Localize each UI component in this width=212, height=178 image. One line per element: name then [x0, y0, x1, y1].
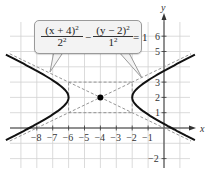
- x-tick-label: −2: [126, 132, 137, 143]
- callout-pointers: [50, 51, 142, 78]
- x-tick-label: −8: [31, 132, 42, 143]
- x-tick-label: −7: [47, 132, 58, 143]
- center-point: [97, 94, 103, 100]
- x-axis-label: x: [199, 123, 205, 134]
- equation-callout: (x + 4)2 22 − (y − 2)2 12 = 1: [34, 20, 142, 54]
- y-tick-label: 3: [155, 77, 160, 88]
- equals-one: = 1: [133, 31, 147, 43]
- y-axis-label: y: [160, 2, 166, 13]
- y-term-numerator: (y − 2): [96, 24, 126, 36]
- y-tick-label: 2: [155, 92, 160, 103]
- x-tick-label: −4: [94, 132, 105, 143]
- fraction-x-term: (x + 4)2 22: [41, 25, 83, 48]
- x-tick-label: −5: [79, 132, 90, 143]
- minus-sign: −: [85, 31, 91, 43]
- y-tick-label: 6: [155, 31, 160, 42]
- y-tick-label: 5: [155, 46, 160, 57]
- y-tick-label: −2: [148, 153, 159, 164]
- x-term-numerator: (x + 4): [45, 24, 75, 36]
- x-tick-label: −6: [63, 132, 74, 143]
- y-tick-label: 1: [155, 107, 160, 118]
- x-tick-label: −3: [110, 132, 121, 143]
- fraction-y-term: (y − 2)2 12: [93, 25, 133, 48]
- x-tick-label: −1: [142, 132, 153, 143]
